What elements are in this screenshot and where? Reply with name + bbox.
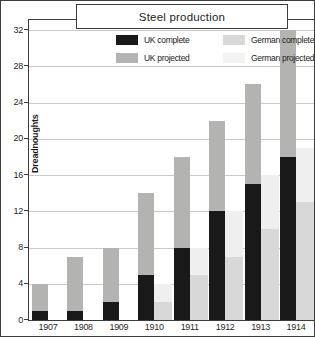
xtick-label-1910: 1910 — [134, 322, 174, 332]
legend-swatch-1 — [116, 35, 138, 45]
ytick-label-28: 28 — [3, 61, 23, 71]
ytick-label-20: 20 — [3, 133, 23, 143]
bar-uk-complete-1909 — [103, 302, 119, 320]
legend-swatch-2 — [116, 53, 138, 63]
ytick-label-24: 24 — [3, 97, 23, 107]
legend-label-4: German projected — [251, 53, 314, 63]
bar-german-complete-1913 — [260, 229, 279, 320]
legend-swatch-4 — [223, 53, 245, 63]
ytick-mark-20 — [24, 138, 28, 139]
bar-uk-complete-1908 — [67, 311, 83, 320]
bar-uk-complete-1914 — [280, 157, 296, 320]
bar-uk-complete-1910 — [138, 275, 154, 320]
chart-title: Steel production — [139, 11, 225, 23]
xtick-label-1913: 1913 — [241, 322, 281, 332]
legend-label-3: German complete — [251, 35, 314, 45]
ytick-mark-28 — [24, 65, 28, 66]
chart-title-box: Steel production — [76, 4, 288, 29]
xtick-label-1912: 1912 — [205, 322, 245, 332]
ytick-mark-0 — [24, 319, 28, 320]
bar-uk-complete-1913 — [245, 184, 261, 320]
bar-german-complete-1914 — [295, 202, 314, 320]
ytick-label-4: 4 — [3, 278, 23, 288]
gridline-20 — [29, 139, 314, 140]
legend-item-german-complete: German complete — [223, 34, 314, 45]
ytick-mark-32 — [24, 29, 28, 30]
xtick-label-1907: 1907 — [28, 322, 68, 332]
xtick-label-1909: 1909 — [99, 322, 139, 332]
ytick-label-0: 0 — [3, 315, 23, 325]
ytick-mark-8 — [24, 247, 28, 248]
ytick-label-12: 12 — [3, 206, 23, 216]
legend-label-1: UK complete — [144, 35, 189, 45]
ytick-label-16: 16 — [3, 170, 23, 180]
ytick-mark-4 — [24, 283, 28, 284]
ytick-label-8: 8 — [3, 242, 23, 252]
plot-area — [28, 19, 315, 321]
xtick-label-1908: 1908 — [63, 322, 103, 332]
bar-uk-complete-1907 — [32, 311, 48, 320]
bar-german-complete-1912 — [224, 257, 243, 320]
legend-item-uk-projected: UK projected — [116, 52, 190, 63]
ytick-mark-24 — [24, 102, 28, 103]
gridline-28 — [29, 66, 314, 67]
chart-figure: Steel production 048121620242832 1907190… — [0, 0, 315, 337]
gridline-24 — [29, 103, 314, 104]
legend-label-2: UK projected — [144, 53, 190, 63]
xtick-label-1911: 1911 — [170, 322, 210, 332]
ytick-mark-12 — [24, 210, 28, 211]
bar-uk-complete-1912 — [209, 211, 225, 320]
legend-item-german-projected: German projected — [223, 52, 314, 63]
bar-uk-complete-1911 — [174, 248, 190, 321]
y-axis-label: Dreadnoughts — [30, 93, 40, 173]
legend-item-uk-complete: UK complete — [116, 34, 189, 45]
bar-german-complete-1910 — [153, 302, 172, 320]
bar-german-complete-1911 — [189, 275, 208, 320]
ytick-label-32: 32 — [3, 25, 23, 35]
gridline-32 — [29, 30, 314, 31]
legend-swatch-3 — [223, 35, 245, 45]
xtick-label-1914: 1914 — [276, 322, 315, 332]
ytick-mark-16 — [24, 174, 28, 175]
